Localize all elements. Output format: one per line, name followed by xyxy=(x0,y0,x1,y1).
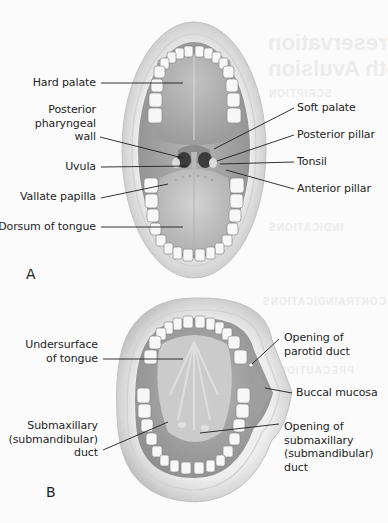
label-submaxillary-duct: Submaxillary (submandibular) duct xyxy=(8,419,98,460)
label-line: Undersurface xyxy=(25,338,98,352)
label-posterior-pillar: Posterior pillar xyxy=(297,128,375,142)
label-line: duct xyxy=(8,446,98,460)
label-tonsil: Tonsil xyxy=(297,155,327,169)
label-anterior-pillar: Anterior pillar xyxy=(297,182,371,196)
figure-a-mouth xyxy=(122,22,266,278)
label-vallate-papilla: Vallate papilla xyxy=(20,190,96,204)
panel-letter-a: A xyxy=(26,266,36,282)
label-line: Posterior xyxy=(35,103,96,117)
label-line: submaxillary xyxy=(284,434,374,448)
parotid-duct-opening-dot xyxy=(250,364,253,367)
label-line: parotid duct xyxy=(284,345,350,359)
label-opening-of-parotid-duct: Opening of parotid duct xyxy=(284,331,350,358)
label-posterior-pharyngeal-wall: Posterior pharyngeal wall xyxy=(35,103,96,144)
label-soft-palate: Soft palate xyxy=(297,101,356,115)
label-line: pharyngeal xyxy=(35,117,96,131)
label-buccal-mucosa: Buccal mucosa xyxy=(296,386,378,400)
label-line: (submandibular) xyxy=(284,447,374,461)
label-hard-palate: Hard palate xyxy=(33,76,96,90)
label-undersurface-of-tongue: Undersurface of tongue xyxy=(25,338,98,365)
label-line: Opening of xyxy=(284,331,350,345)
label-opening-of-submaxillary-duct: Opening of submaxillary (submandibular) … xyxy=(284,420,374,474)
label-line: of tongue xyxy=(25,352,98,366)
label-dorsum-of-tongue: Dorsum of tongue xyxy=(0,220,96,234)
label-line: duct xyxy=(284,461,374,475)
label-line: wall xyxy=(35,130,96,144)
label-line: Submaxillary xyxy=(8,419,98,433)
panel-letter-b: B xyxy=(46,484,56,500)
label-line: (submandibular) xyxy=(8,433,98,447)
label-line: Opening of xyxy=(284,420,374,434)
label-uvula: Uvula xyxy=(65,160,96,174)
